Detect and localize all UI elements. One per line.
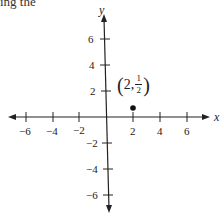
point-label-open-paren: (	[117, 75, 124, 95]
y-tick-label: 4	[89, 60, 95, 71]
y-tick-label: −4	[86, 164, 98, 175]
x-tick-label: 2	[130, 126, 136, 137]
coordinate-plane	[0, 0, 224, 215]
x-tick-label: −6	[19, 126, 31, 137]
y-tick-label: 2	[90, 86, 96, 97]
y-tick-label: −6	[86, 190, 98, 201]
x-tick-label: −2	[73, 125, 85, 136]
data-point	[130, 105, 136, 111]
fraction-denominator: 2	[136, 86, 141, 95]
x-axis-label: x	[214, 111, 219, 123]
x-axis-left-arrow-icon	[8, 114, 16, 120]
y-axis-label: y	[99, 4, 104, 16]
point-label-fraction: 1 2	[135, 74, 142, 95]
y-axis-line	[104, 18, 109, 209]
point-label-close-paren: )	[143, 75, 150, 95]
y-tick-label: −2	[86, 138, 98, 149]
x-tick-label: 6	[184, 126, 190, 137]
x-tick-label: −4	[46, 126, 58, 137]
y-axis-down-arrow-icon	[106, 205, 112, 213]
point-label-x: 2,	[124, 78, 135, 92]
x-tick-label: 4	[157, 126, 163, 137]
point-label: ( 2, 1 2 )	[117, 74, 150, 95]
fraction-numerator: 1	[136, 74, 141, 83]
y-tick-label: 6	[88, 34, 94, 45]
x-axis-right-arrow-icon	[202, 114, 210, 120]
